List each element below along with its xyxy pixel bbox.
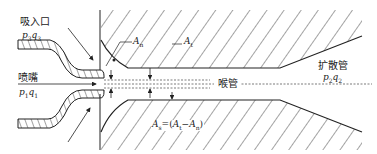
nozzle-pq-label: p1q1 (19, 88, 38, 99)
ejector-diagram: 吸入口 p3q3 喷嘴 p1q1 An At 喉管 扩散管 p2q2 As=(A… (0, 0, 377, 154)
suction-area-formula: As=(At−An) (151, 120, 204, 131)
area-nozzle-label: An (133, 37, 143, 48)
area-throat-label: At (184, 37, 193, 48)
suction-arrow-bottom (68, 108, 90, 142)
ejector-drawing (0, 0, 377, 154)
throat-label: 喉管 (216, 79, 240, 89)
dimension-arrows (111, 68, 172, 99)
leader-dot (113, 59, 116, 62)
suction-inlet-label: 吸入口 (20, 17, 50, 27)
suction-pq-label: p3q3 (22, 31, 41, 42)
nozzle (18, 40, 104, 128)
lower-wall (101, 100, 362, 150)
suction-arrow-top (68, 28, 93, 60)
diffuser-label: 扩散管 (318, 61, 348, 71)
nozzle-label: 喷嘴 (18, 73, 38, 83)
diffuser-pq-label: p2q2 (323, 73, 342, 84)
